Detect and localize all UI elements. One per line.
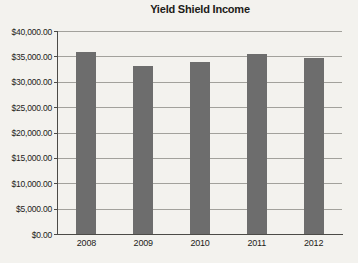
bar-2008 bbox=[76, 52, 96, 234]
chart-page: { "chart_data": { "type": "bar", "title"… bbox=[0, 0, 358, 263]
chart-title: Yield Shield Income bbox=[58, 3, 342, 15]
y-tick-label-0: $0.00 bbox=[0, 230, 52, 240]
bar-band-2012 bbox=[285, 31, 342, 234]
bar-series bbox=[58, 31, 342, 234]
y-tick-label-40000: $40,000.00 bbox=[0, 27, 52, 37]
y-tick-label-15000: $15,000.00 bbox=[0, 153, 52, 163]
x-axis-line bbox=[57, 234, 343, 235]
x-tick-label-2011: 2011 bbox=[228, 238, 285, 248]
plot-area: $0.00$5,000.00$10,000.00$15,000.00$20,00… bbox=[58, 31, 342, 234]
y-tick-label-10000: $10,000.00 bbox=[0, 179, 52, 189]
bar-2010 bbox=[190, 62, 210, 234]
bar-band-2009 bbox=[115, 31, 172, 234]
y-tick-label-30000: $30,000.00 bbox=[0, 77, 52, 87]
y-tick-label-5000: $5,000.00 bbox=[0, 204, 52, 214]
bar-2009 bbox=[133, 66, 153, 234]
bar-2011 bbox=[247, 54, 267, 234]
y-tick-label-35000: $35,000.00 bbox=[0, 52, 52, 62]
x-tick-label-2010: 2010 bbox=[172, 238, 229, 248]
bar-band-2011 bbox=[228, 31, 285, 234]
bar-2012 bbox=[304, 58, 324, 234]
bar-band-2008 bbox=[58, 31, 115, 234]
bar-band-2010 bbox=[172, 31, 229, 234]
y-tick-label-25000: $25,000.00 bbox=[0, 103, 52, 113]
x-tick-label-2012: 2012 bbox=[285, 238, 342, 248]
x-axis-labels: 20082009201020112012 bbox=[58, 238, 342, 248]
y-tick-label-20000: $20,000.00 bbox=[0, 128, 52, 138]
x-tick-label-2008: 2008 bbox=[58, 238, 115, 248]
x-tick-label-2009: 2009 bbox=[115, 238, 172, 248]
